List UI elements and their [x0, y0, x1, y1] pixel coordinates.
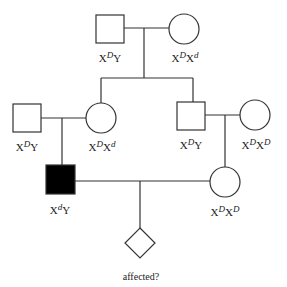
gen1-father-genotype: XDY — [99, 51, 121, 64]
gen2-right-wife-genotype: XDXD — [242, 138, 271, 151]
gen2-left-daughter-genotype: XDXd — [89, 140, 116, 153]
gen2-right-son-square — [177, 102, 205, 130]
gen2-left-husband-genotype: XDY — [16, 140, 38, 153]
gen1-mother-genotype: XDXd — [172, 51, 199, 64]
gen1-father-square — [96, 15, 124, 43]
gen3-affected-male-genotype: XdY — [50, 203, 70, 216]
gen4-child-caption: affected? — [123, 271, 159, 282]
gen4-child-diamond — [125, 228, 155, 258]
gen2-left-husband-square — [13, 104, 41, 132]
gen3-female-genotype: XDXD — [211, 205, 240, 218]
gen1-mother-circle — [169, 14, 199, 44]
gen3-affected-male-square — [46, 165, 75, 194]
gen2-right-son-genotype: XDY — [180, 138, 202, 151]
gen2-right-wife-circle — [240, 100, 270, 130]
gen3-female-circle — [210, 167, 240, 197]
gen2-left-daughter-circle — [86, 103, 116, 133]
